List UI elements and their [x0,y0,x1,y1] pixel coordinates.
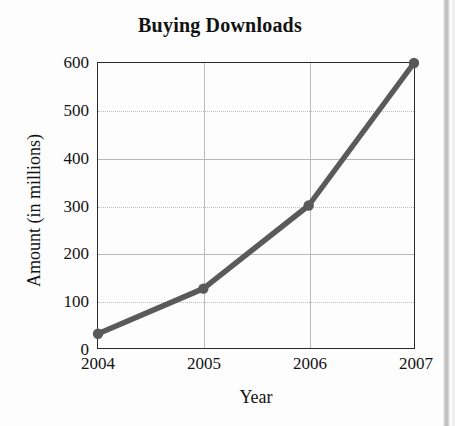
data-point-marker [93,329,103,339]
y-axis-tick-label: 200 [64,244,90,264]
scan-artifact-strip [443,0,450,426]
y-axis-tick-label: 500 [64,101,90,121]
chart-title: Buying Downloads [0,14,440,37]
plot-area: 0100200300400500600 2004200520062007 [97,62,415,349]
data-point-marker [303,200,313,210]
x-axis-title: Year [97,387,415,408]
y-axis-tick-label: 300 [64,197,90,217]
y-axis-tick-label: 400 [64,149,90,169]
x-axis-tick-label: 2007 [399,354,433,374]
data-point-marker [409,58,419,68]
data-series-line [98,63,414,348]
y-axis-tick-label: 100 [64,292,90,312]
chart-figure: Buying Downloads Amount (in millions) 01… [0,0,455,426]
y-axis-title: Amount (in millions) [24,91,45,331]
x-axis-tick-label: 2005 [187,354,221,374]
data-point-marker [198,283,208,293]
y-axis-tick-label: 600 [64,53,90,73]
x-axis-tick-label: 2006 [293,354,327,374]
x-axis-tick-label: 2004 [81,354,115,374]
series-polyline [98,63,414,334]
